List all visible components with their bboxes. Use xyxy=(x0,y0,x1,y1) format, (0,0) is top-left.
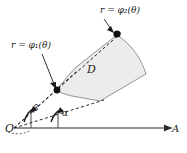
polar-region-diagram: r = φ₂(θ) r = φ₁(θ) D O A β α xyxy=(0,0,187,153)
phi2-leader-arrowhead xyxy=(107,26,114,33)
phi1-leader-line xyxy=(42,54,54,84)
diagram-canvas xyxy=(0,0,187,153)
origin-label: O xyxy=(5,123,14,134)
inner-intersection-dot xyxy=(54,87,61,94)
axis-end-label: A xyxy=(172,124,179,134)
outer-curve-label: r = φ₂(θ) xyxy=(100,6,140,15)
region-d-shape xyxy=(56,35,146,101)
region-label: D xyxy=(87,64,96,75)
angle-beta-label: β xyxy=(33,104,38,113)
outer-intersection-dot xyxy=(113,30,120,37)
polar-axis-arrowhead xyxy=(164,124,172,131)
inner-curve-label: r = φ₁(θ) xyxy=(11,41,51,50)
angle-alpha-label: α xyxy=(62,109,68,118)
